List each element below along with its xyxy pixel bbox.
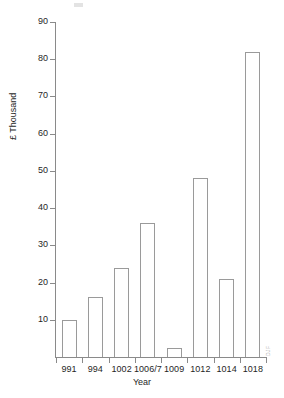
y-axis-title: £ Thousand (8, 93, 19, 140)
y-axis-tick-label: 10 (38, 314, 48, 325)
x-axis-title: Year (0, 377, 284, 388)
bar-chart-figure: 102030405060708090 99199410021006/710091… (0, 0, 284, 398)
y-axis-tick-label: 50 (38, 165, 48, 176)
bar (167, 348, 182, 357)
scan-watermark: DJF (265, 336, 271, 356)
x-axis-category-label: 1014 (217, 364, 237, 375)
x-axis-tick (161, 357, 162, 363)
y-axis-tick-label: 80 (38, 53, 48, 64)
y-axis-tick-label: 90 (38, 16, 48, 27)
bar (219, 279, 234, 357)
y-axis-tick-label: 60 (38, 128, 48, 139)
y-axis-tick-label: 70 (38, 90, 48, 101)
x-axis-category-label: 1018 (243, 364, 263, 375)
bar (114, 268, 129, 357)
x-axis-tick (109, 357, 110, 363)
x-axis-tick (240, 357, 241, 363)
x-axis-tick (266, 357, 267, 363)
bar (88, 297, 103, 357)
x-axis-tick (56, 357, 57, 363)
x-axis-tick (214, 357, 215, 363)
y-axis-tick-label: 40 (38, 202, 48, 213)
x-axis-category-label: 1012 (190, 364, 210, 375)
x-axis-tick (135, 357, 136, 363)
bar (245, 52, 260, 357)
plot-area (56, 22, 266, 357)
bar (140, 223, 155, 357)
x-axis-category-label: 991 (62, 364, 77, 375)
x-axis-category-label: 994 (88, 364, 103, 375)
x-axis-tick (187, 357, 188, 363)
x-axis-category-label: 1009 (164, 364, 184, 375)
scan-artifact-speck (74, 3, 83, 7)
x-axis-tick (82, 357, 83, 363)
bar (62, 320, 77, 357)
x-axis-category-label: 1002 (112, 364, 132, 375)
bar (193, 178, 208, 357)
y-axis-tick-label: 20 (38, 277, 48, 288)
x-axis-category-label: 1006/7 (134, 364, 162, 375)
y-axis-tick-label: 30 (38, 239, 48, 250)
